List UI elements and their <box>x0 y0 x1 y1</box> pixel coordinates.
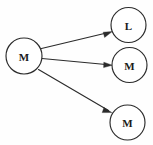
edge-source-to-top-line <box>42 33 109 49</box>
edge-group <box>39 32 113 113</box>
node-group: M L M M <box>6 8 147 141</box>
edge-source-to-bottom[interactable] <box>39 70 112 113</box>
node-target-top-label: L <box>125 20 133 32</box>
node-target-middle[interactable]: M <box>112 48 147 83</box>
edge-source-to-bottom-arrowhead <box>102 108 112 113</box>
node-target-top[interactable]: L <box>111 8 146 43</box>
graph-svg: M L M M <box>0 0 153 145</box>
node-target-bottom[interactable]: M <box>110 105 145 140</box>
edge-source-to-middle-line <box>42 59 109 65</box>
edge-source-to-middle[interactable] <box>42 59 112 68</box>
edge-source-to-bottom-line <box>39 70 109 111</box>
edge-source-to-middle-arrowhead <box>104 62 113 67</box>
edge-source-to-top[interactable] <box>42 32 113 49</box>
node-source-label: M <box>19 51 30 63</box>
node-target-bottom-label: M <box>122 117 133 129</box>
node-target-middle-label: M <box>124 60 135 72</box>
edge-source-to-top-arrowhead <box>103 32 112 38</box>
node-source[interactable]: M <box>6 38 42 74</box>
diagram-canvas: M L M M <box>0 0 153 145</box>
